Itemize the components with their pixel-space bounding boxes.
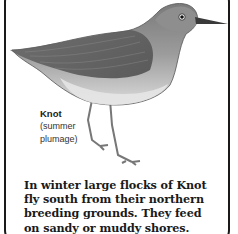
knot-bird-illustration bbox=[0, 0, 238, 170]
description-line: breeding grounds. They feed bbox=[24, 206, 234, 220]
species-description: In winter large flocks of Knot fly south… bbox=[24, 178, 234, 234]
caption-line-2: plumage) bbox=[40, 133, 78, 146]
beak bbox=[195, 17, 228, 24]
wing bbox=[10, 30, 153, 78]
legs bbox=[88, 100, 140, 165]
description-line: on sandy or muddy shores. bbox=[24, 221, 234, 234]
description-line: In winter large flocks of Knot bbox=[24, 178, 234, 192]
species-caption: Knot (summer plumage) bbox=[40, 107, 78, 146]
caption-line-1: (summer bbox=[40, 120, 78, 133]
species-name: Knot bbox=[40, 107, 78, 120]
description-line: fly south from their northern bbox=[24, 192, 234, 206]
